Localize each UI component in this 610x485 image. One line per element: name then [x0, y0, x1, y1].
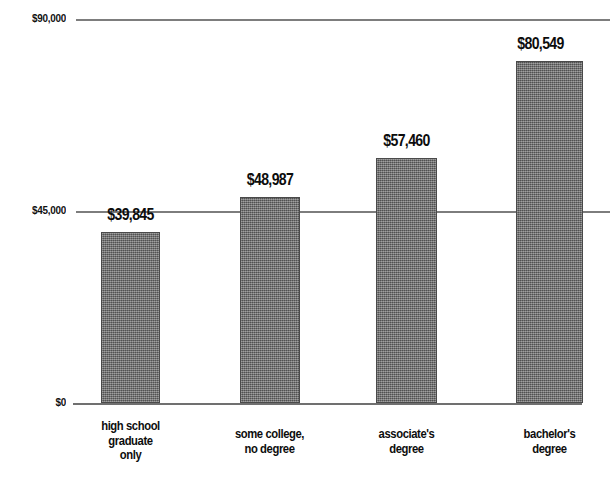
bar-some-college-no-degree [240, 197, 300, 403]
bar-high-school-graduate-only [101, 232, 160, 403]
axis-baseline [73, 403, 582, 405]
ytick-label-45000: $45,000 [9, 204, 66, 216]
bar-value-label-4: $80,549 [485, 35, 597, 53]
plot-area: $90,000 $45,000 $0 $39,845 $48,987 $57,4… [0, 0, 610, 485]
category-label-4: bachelor's degree [484, 427, 610, 456]
gridline-90000 [76, 19, 610, 21]
bar-bachelors-degree [516, 61, 583, 403]
bar-chart: $90,000 $45,000 $0 $39,845 $48,987 $57,4… [0, 0, 610, 485]
ytick-label-0: $0 [9, 396, 66, 408]
bar-value-label-1: $39,845 [78, 206, 183, 224]
category-label-1: high school graduate only [65, 419, 196, 463]
bar-associates-degree [376, 158, 437, 403]
bar-value-label-2: $48,987 [217, 171, 323, 189]
ytick-label-90000: $90,000 [9, 12, 66, 24]
bar-value-label-3: $57,460 [353, 132, 459, 150]
category-label-3: associate's degree [341, 427, 472, 456]
category-label-2: some college, no degree [204, 427, 335, 456]
